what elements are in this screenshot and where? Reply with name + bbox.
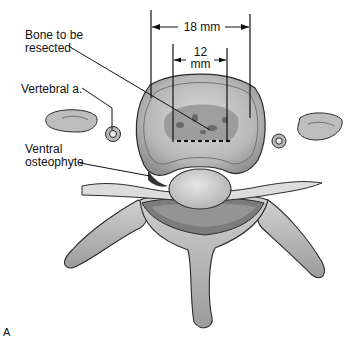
label-bone-to-be-resected: Bone to be resected: [25, 29, 83, 55]
vertebral-artery-left: [106, 127, 121, 142]
dimension-12mm: 12 mm: [188, 46, 213, 70]
vertebral-artery-right: [272, 134, 286, 148]
panel-label: A: [3, 326, 10, 339]
dimension-18mm: 18 mm: [179, 21, 225, 33]
vertebra-diagram: Bone to be resected Vertebral a. Ventral…: [0, 0, 362, 343]
label-vertebral-artery: Vertebral a.: [21, 83, 82, 96]
label-ventral-osteophyte: Ventral osteophyte: [25, 143, 84, 169]
label-ventral-line2: osteophyte: [25, 156, 84, 169]
posterior-arch: [65, 194, 325, 328]
label-bone-line2: resected: [25, 42, 83, 55]
dimension-12mm-unit: mm: [188, 58, 213, 70]
